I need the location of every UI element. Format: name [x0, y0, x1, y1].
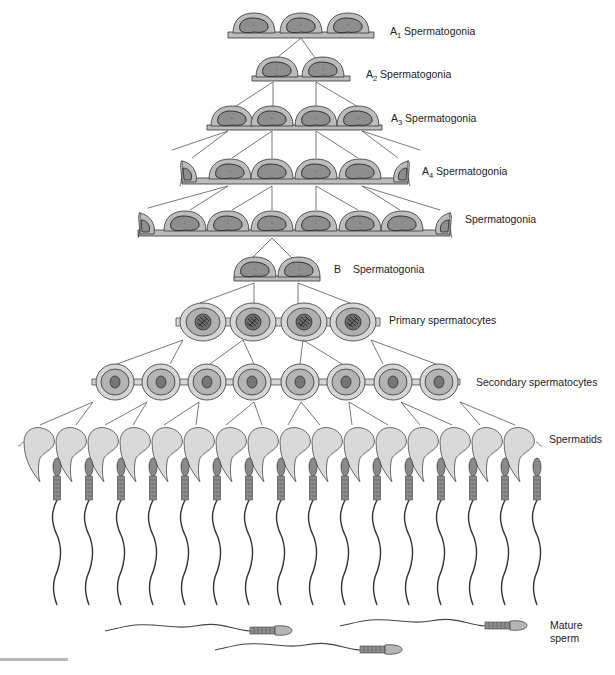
label-secondary-spermatocytes: Secondary spermatocytes [476, 376, 597, 388]
secondary-spermatid-connector [40, 402, 515, 425]
spermatogenesis-diagram [0, 0, 615, 675]
intermediate-b-connector [252, 238, 292, 258]
label-a1-spermatogonia: A1 Spermatogonia [390, 25, 475, 40]
intermediate-spermatogonia-row [138, 211, 452, 238]
label-a2-spermatogonia: A2 Spermatogonia [366, 68, 451, 83]
label-spermatids: Spermatids [549, 433, 602, 445]
label-a4-text: Spermatogonia [433, 165, 507, 177]
a2-a3-connector [233, 82, 360, 108]
label-a3-text: Spermatogonia [402, 112, 476, 124]
a2-spermatogonia-row [252, 57, 350, 81]
label-mature-sperm: Mature sperm [550, 619, 583, 645]
label-a4-prefix: A [422, 165, 429, 177]
mature-sperm-group [105, 619, 527, 654]
b-primary-connector [200, 283, 350, 303]
label-primary-spermatocytes: Primary spermatocytes [389, 314, 496, 326]
a4-intermediate-connector [148, 186, 440, 210]
b-spermatogonia-row [234, 257, 320, 281]
label-a3-prefix: A [391, 112, 398, 124]
primary-secondary-connector [117, 340, 436, 364]
a1-spermatogonia-row [228, 13, 374, 38]
label-a3-spermatogonia: A3 Spermatogonia [391, 112, 476, 127]
developing-sperm-tails [53, 458, 542, 605]
label-b-spermatogonia: BSpermatogonia [334, 263, 424, 275]
label-b-text: Spermatogonia [353, 263, 424, 275]
label-a2-prefix: A [366, 68, 373, 80]
label-mature-line1: Mature [550, 619, 583, 632]
secondary-spermatocytes-row [92, 364, 460, 400]
figure-caption-rule [0, 658, 68, 661]
label-a4-spermatogonia: A4 Spermatogonia [422, 165, 507, 180]
label-intermediate-spermatogonia: Spermatogonia [465, 213, 536, 225]
label-a1-text: Spermatogonia [401, 25, 475, 37]
label-a2-text: Spermatogonia [377, 68, 451, 80]
a3-spermatogonia-row [207, 106, 382, 130]
a3-a4-connector [172, 131, 420, 158]
label-b-prefix: B [334, 263, 341, 275]
label-mature-line2: sperm [550, 632, 583, 645]
a4-spermatogonia-row [180, 159, 410, 186]
primary-spermatocytes-row [176, 303, 380, 341]
label-a1-prefix: A [390, 25, 397, 37]
